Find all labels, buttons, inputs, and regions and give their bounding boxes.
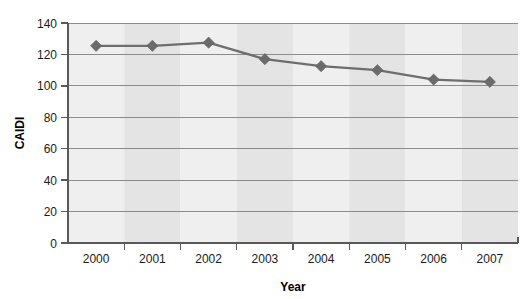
y-tick-label-100: 100 <box>37 79 57 93</box>
y-tick-label-40: 40 <box>44 174 58 188</box>
x-tick-label-2005: 2005 <box>364 252 391 266</box>
y-axis-title: CAIDI <box>13 117 27 150</box>
x-tick-label-2003: 2003 <box>252 252 279 266</box>
plot-band-2002 <box>181 23 237 243</box>
x-tick-label-2007: 2007 <box>477 252 504 266</box>
x-tick-label-2004: 2004 <box>308 252 335 266</box>
plot-band-2005 <box>349 23 405 243</box>
x-tick-marks <box>124 243 462 250</box>
x-tick-label-2001: 2001 <box>139 252 166 266</box>
x-tick-label-2002: 2002 <box>195 252 222 266</box>
plot-band-2001 <box>124 23 180 243</box>
y-tick-label-0: 0 <box>50 237 57 251</box>
plot-band-2006 <box>406 23 462 243</box>
y-tick-marks <box>61 23 68 243</box>
plot-band-2007 <box>462 23 518 243</box>
y-tick-label-120: 120 <box>37 48 57 62</box>
y-tick-labels: 0 20 40 60 80 100 120 140 <box>37 17 57 251</box>
x-tick-labels: 2000 2001 2002 2003 2004 2005 2006 2007 <box>83 252 504 266</box>
plot-band-2004 <box>293 23 349 243</box>
x-axis-title: Year <box>280 280 306 294</box>
x-tick-label-2006: 2006 <box>420 252 447 266</box>
y-tick-label-20: 20 <box>44 205 58 219</box>
y-tick-label-140: 140 <box>37 17 57 31</box>
x-tick-label-2000: 2000 <box>83 252 110 266</box>
chart-container: 0 20 40 60 80 100 120 140 2000 2001 2002… <box>0 0 532 299</box>
plot-band-2000 <box>68 23 124 243</box>
y-tick-label-60: 60 <box>44 142 58 156</box>
y-tick-label-80: 80 <box>44 111 58 125</box>
plot-background <box>68 23 518 243</box>
line-chart: 0 20 40 60 80 100 120 140 2000 2001 2002… <box>0 0 532 299</box>
